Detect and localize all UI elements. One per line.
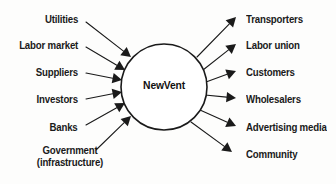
output-arrow-line-2 [206, 74, 227, 82]
output-label-2: Customers [246, 67, 295, 79]
input-label-5-line1: Government [15, 145, 125, 157]
input-label-2: Suppliers [36, 67, 78, 79]
input-label-3: Investors [37, 94, 78, 106]
input-arrow-line-3 [86, 94, 113, 99]
output-label-4: Advertising media [246, 122, 327, 134]
input-label-5: Government(infrastructure) [15, 145, 125, 168]
input-arrow-arrowhead-1 [114, 61, 125, 70]
output-arrow-line-4 [200, 110, 227, 122]
input-arrow-arrowhead-2 [112, 73, 122, 83]
input-arrow-line-0 [86, 22, 124, 51]
center-node-label: NewVent [126, 79, 201, 91]
output-arrow-arrowhead-3 [226, 92, 236, 102]
output-label-0: Transporters [246, 14, 303, 26]
output-label-5: Community [246, 149, 297, 161]
output-arrow-line-0 [197, 24, 229, 57]
output-arrow-line-5 [191, 122, 224, 146]
input-arrow-line-2 [86, 73, 113, 78]
output-label-3: Wholesalers [246, 94, 301, 106]
input-label-0: Utilities [45, 14, 78, 26]
output-arrow-line-3 [205, 95, 227, 97]
output-arrow-arrowhead-5 [221, 142, 232, 152]
output-arrow-line-1 [203, 50, 229, 70]
input-arrow-line-1 [86, 47, 117, 65]
input-label-5-line2: (infrastructure) [15, 157, 125, 169]
input-arrow-arrowhead-0 [120, 47, 131, 57]
output-label-1: Labor union [246, 40, 300, 52]
input-label-4: Banks [50, 122, 78, 134]
input-arrow-line-4 [86, 108, 117, 125]
output-arrow-arrowhead-1 [225, 44, 236, 54]
input-label-1: Labor market [19, 40, 78, 52]
diagram-canvas: NewVent UtilitiesLabor marketSuppliersIn… [0, 0, 336, 184]
